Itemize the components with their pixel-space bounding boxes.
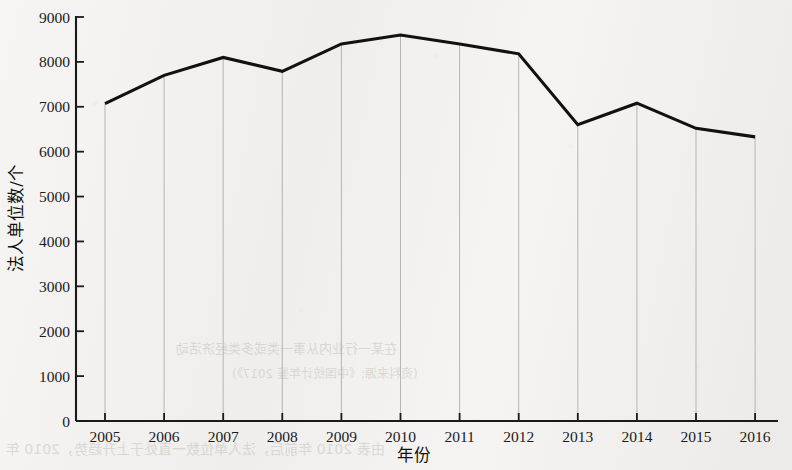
x-tick-label: 2011 — [444, 428, 474, 445]
line-chart-plot: 0100020003000400050006000700080009000 20… — [0, 0, 792, 470]
y-tick-label: 4000 — [39, 233, 70, 250]
y-tick-label: 8000 — [39, 53, 70, 70]
y-tick-label: 0 — [62, 413, 70, 430]
chart-container: 在某一行业内从事一类或多类经济活动 (资料来源:《中国统计年鉴 2017》) 由… — [0, 0, 792, 470]
gridlines-group — [105, 35, 755, 421]
x-tick-label: 2013 — [562, 428, 593, 445]
y-axis-title: 法人单位数/个 — [7, 164, 26, 272]
y-axis-tick-labels-group: 0100020003000400050006000700080009000 — [39, 9, 70, 430]
x-tick-label: 2005 — [90, 428, 121, 445]
y-axis-ticks-group — [76, 17, 84, 421]
x-tick-label: 2012 — [503, 428, 534, 445]
y-tick-label: 2000 — [39, 323, 70, 340]
x-tick-label: 2007 — [208, 428, 239, 445]
y-tick-label: 7000 — [39, 98, 70, 115]
y-tick-label: 1000 — [39, 368, 70, 385]
x-axis-title: 年份 — [397, 446, 431, 465]
data-series-line — [105, 35, 755, 137]
x-tick-label: 2014 — [621, 428, 652, 445]
x-tick-label: 2006 — [149, 428, 180, 445]
x-tick-label: 2016 — [740, 428, 771, 445]
x-axis-tick-labels-group: 2005200620072008200920102011201220132014… — [90, 428, 771, 445]
x-tick-label: 2008 — [267, 428, 298, 445]
y-tick-label: 6000 — [39, 143, 70, 160]
x-axis-ticks-group — [105, 413, 755, 421]
y-tick-label: 3000 — [39, 278, 70, 295]
x-tick-label: 2010 — [385, 428, 416, 445]
y-tick-label: 9000 — [39, 9, 70, 26]
x-tick-label: 2009 — [326, 428, 357, 445]
x-tick-label: 2015 — [681, 428, 712, 445]
y-tick-label: 5000 — [39, 188, 70, 205]
